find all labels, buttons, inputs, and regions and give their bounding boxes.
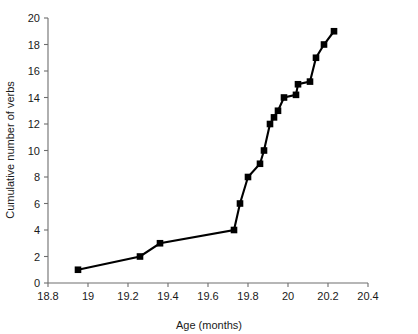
y-tick-label: 20 [28,12,40,24]
data-point-marker [307,78,314,85]
y-tick-label: 14 [28,92,40,104]
x-tick-label: 19.6 [197,290,218,302]
y-tick-label: 16 [28,65,40,77]
cumulative-verbs-line-chart: 18.81919.219.419.619.82020.220.4 0246810… [0,0,418,334]
data-point-marker [267,121,274,128]
x-axis-tick-labels: 18.81919.219.419.619.82020.220.4 [37,290,378,302]
data-point-marker [137,253,144,260]
verb-growth-line [78,31,334,270]
x-tick-label: 19 [82,290,94,302]
data-point-markers [75,28,338,273]
data-point-marker [231,227,238,234]
y-axis-tick-labels: 02468101214161820 [28,12,40,289]
data-point-marker [293,92,300,99]
x-tick-label: 20.4 [357,290,378,302]
data-point-marker [313,54,320,61]
tick-marks [44,18,368,287]
data-point-marker [157,240,164,247]
data-point-marker [257,160,264,167]
data-point-marker [281,94,288,101]
data-point-marker [261,147,268,154]
chart-figure: 18.81919.219.419.619.82020.220.4 0246810… [0,0,418,334]
y-tick-label: 4 [34,224,40,236]
y-tick-label: 2 [34,251,40,263]
y-tick-label: 0 [34,277,40,289]
data-point-marker [237,200,244,207]
y-tick-label: 6 [34,198,40,210]
y-axis-title: Cumulative number of verbs [4,81,16,219]
x-tick-label: 19.4 [157,290,178,302]
data-point-marker [275,107,282,114]
data-point-marker [75,266,82,273]
data-point-marker [295,81,302,88]
x-axis-title: Age (months) [176,319,242,331]
data-point-marker [321,41,328,48]
x-tick-label: 20.2 [317,290,338,302]
data-point-marker [331,28,338,35]
x-tick-label: 19.8 [237,290,258,302]
y-tick-label: 12 [28,118,40,130]
axes [48,18,368,283]
y-tick-label: 10 [28,145,40,157]
x-tick-label: 20 [282,290,294,302]
y-tick-label: 18 [28,39,40,51]
y-tick-label: 8 [34,171,40,183]
data-point-marker [245,174,252,181]
x-tick-label: 18.8 [37,290,58,302]
data-point-marker [271,114,278,121]
x-tick-label: 19.2 [117,290,138,302]
